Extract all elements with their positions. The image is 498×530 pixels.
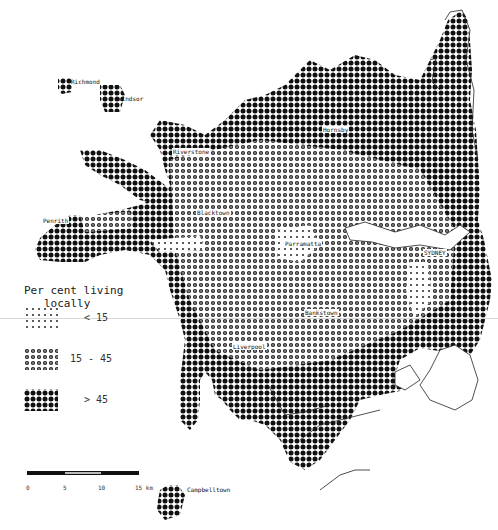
legend-title: Per cent living locally bbox=[24, 284, 123, 310]
scale-tick-5: 5 bbox=[63, 484, 67, 491]
legend-label-low: < 15 bbox=[84, 312, 108, 323]
scale-seg-2 bbox=[64, 471, 102, 475]
place-label-bankstown: Bankstown bbox=[304, 309, 339, 316]
legend-title-line1: Per cent living bbox=[24, 284, 123, 297]
scale-seg-1 bbox=[27, 471, 65, 475]
legend-title-line2: locally bbox=[24, 297, 123, 310]
place-label-windsor: Windsor bbox=[117, 95, 144, 102]
scale-bar bbox=[27, 471, 139, 475]
place-label-blacktown: Blacktown bbox=[196, 209, 231, 216]
place-label-parramatta: Parramatta bbox=[284, 240, 322, 247]
place-label-richmond: Richmond bbox=[70, 78, 101, 85]
scan-artifact-line bbox=[0, 318, 498, 319]
place-label-liverpool: Liverpool bbox=[232, 343, 267, 350]
scale-tick-0: 0 bbox=[26, 484, 30, 491]
scale-seg-3 bbox=[101, 471, 139, 475]
place-label-campbelltown: Campbelltown bbox=[186, 486, 231, 493]
place-label-penrith: Penrith bbox=[42, 217, 69, 224]
place-label-riverstone: Riverstone bbox=[172, 148, 210, 155]
legend-label-high: > 45 bbox=[84, 394, 108, 405]
place-label-hornsby: Hornsby bbox=[322, 126, 349, 133]
place-label-sydney: SYDNEY bbox=[423, 249, 447, 256]
scale-tick-10: 10 bbox=[98, 484, 105, 491]
legend-swatches bbox=[24, 307, 58, 411]
scale-tick-15: 15 km bbox=[135, 484, 153, 491]
legend-label-mid: 15 - 45 bbox=[70, 353, 112, 364]
